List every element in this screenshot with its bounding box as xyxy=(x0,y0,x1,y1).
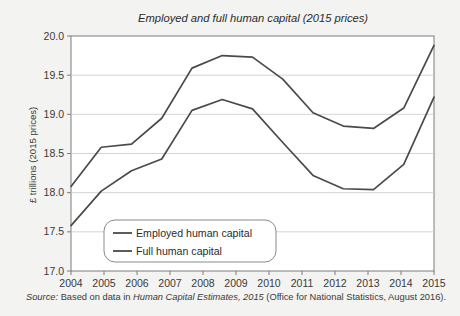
x-tick-label: 2015 xyxy=(422,277,446,289)
x-tick-label: 2009 xyxy=(224,277,248,289)
x-axis-ticks xyxy=(71,271,434,275)
x-axis-tick-labels: 2004200520062007200820092010201120122013… xyxy=(59,277,446,289)
source-publication: Human Capital Estimates, 2015 xyxy=(133,292,264,302)
x-tick-label: 2014 xyxy=(389,277,413,289)
x-tick-label: 2006 xyxy=(125,277,149,289)
chart-title: Employed and full human capital (2015 pr… xyxy=(138,12,368,24)
source-note: Source: Based on data in Human Capital E… xyxy=(26,292,454,302)
x-tick-label: 2010 xyxy=(257,277,281,289)
y-tick-label: 19.0 xyxy=(44,108,65,120)
x-tick-label: 2005 xyxy=(92,277,116,289)
y-tick-label: 18.0 xyxy=(44,186,65,198)
source-text-after: (Office for National Statistics, August … xyxy=(264,292,446,302)
y-tick-label: 20.0 xyxy=(44,30,65,42)
legend-label-employed: Employed human capital xyxy=(136,227,252,239)
x-tick-label: 2013 xyxy=(356,277,380,289)
y-tick-label: 18.5 xyxy=(44,147,65,159)
y-tick-label: 17.5 xyxy=(44,225,65,237)
x-tick-label: 2004 xyxy=(59,277,83,289)
x-tick-label: 2007 xyxy=(158,277,182,289)
y-axis-ticks xyxy=(67,36,71,271)
y-axis-title: £ trillions (2015 prices) xyxy=(27,107,38,204)
source-lead: Source: xyxy=(26,292,58,302)
line-chart: Employed and full human capital (2015 pr… xyxy=(0,0,460,316)
x-tick-label: 2008 xyxy=(191,277,215,289)
y-tick-label: 19.5 xyxy=(44,69,65,81)
y-tick-label: 17.0 xyxy=(44,265,65,277)
chart-legend: Employed human capital Full human capita… xyxy=(104,220,276,262)
x-tick-label: 2011 xyxy=(291,277,314,289)
y-axis-tick-labels: 20.019.519.018.518.017.517.0 xyxy=(44,30,65,277)
source-text-before: Based on data in xyxy=(58,292,133,302)
x-tick-label: 2012 xyxy=(323,277,347,289)
legend-label-full: Full human capital xyxy=(136,245,222,257)
figure-container: Employed and full human capital (2015 pr… xyxy=(0,0,460,316)
